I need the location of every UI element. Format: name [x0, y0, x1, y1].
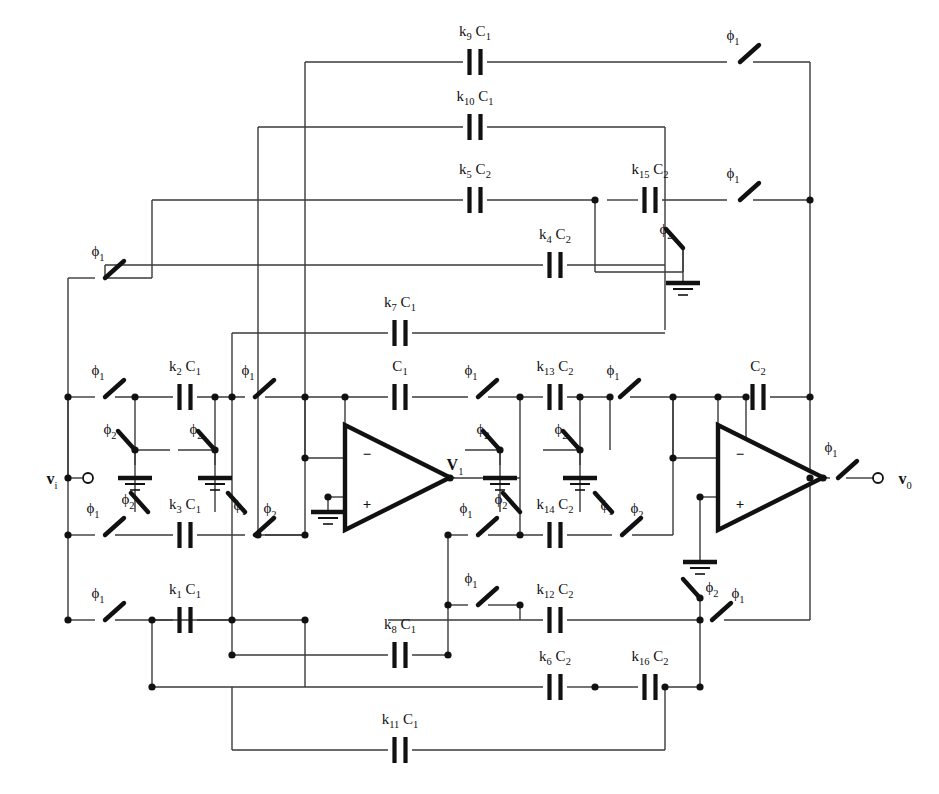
junction-dot — [714, 393, 721, 400]
junction-dot — [591, 683, 598, 690]
switch-sw-k3-left-phi1[interactable] — [103, 518, 124, 537]
opamp-body — [345, 425, 450, 530]
capacitor-C1 — [395, 384, 406, 410]
switch-blade[interactable] — [712, 603, 731, 620]
capacitor-label-C1: C1 — [392, 358, 407, 377]
junction-dot — [64, 531, 71, 538]
junction-dot — [516, 531, 523, 538]
switch-phase-label-sw-top-phi1: ϕ1 — [726, 27, 739, 47]
switch-blade[interactable] — [683, 579, 700, 598]
switch-sw-in-top-phi1[interactable] — [103, 261, 124, 280]
circuit-diagram-canvas: −+−+ k9 C1k10 C1k5 C2k15 C2k4 C2k7 C1k2 … — [0, 0, 939, 794]
junction-dot — [696, 683, 703, 690]
junction-dot — [661, 683, 668, 690]
switch-phase-label-sw-k14-right-phi2: ϕ2 — [630, 500, 643, 520]
switch-pivot — [518, 510, 521, 513]
capacitor-k5C2 — [470, 187, 481, 213]
switch-blade[interactable] — [105, 603, 124, 620]
input-port-circle — [83, 473, 93, 483]
capacitor-k9C1 — [470, 49, 481, 75]
switch-sw-c1-right-phi1[interactable] — [476, 380, 497, 399]
switch-blade[interactable] — [105, 261, 124, 278]
switch-phase-label-sw-k13n-gnd-phi2: ϕ2 — [554, 421, 567, 441]
capacitor-C2 — [753, 384, 764, 410]
capacitor-k16C2 — [645, 674, 656, 700]
capacitor-label-k3C1: k3 C1 — [169, 496, 201, 515]
junction-dot — [211, 393, 218, 400]
switch-blade[interactable] — [118, 431, 135, 450]
switch-sw-k14-right-phi2[interactable] — [620, 518, 641, 537]
opamp-noninverting-input-label: + — [736, 496, 745, 512]
switch-phase-label-sw-k1-left-phi1: ϕ1 — [91, 585, 104, 605]
junction-dot — [148, 616, 155, 623]
capacitor-label-k1C1: k1 C1 — [169, 581, 201, 600]
junction-dot — [669, 393, 676, 400]
switch-phase-label-sw-k3-right-phi2: ϕ2 — [263, 500, 276, 520]
switch-sw-top-phi1[interactable] — [738, 45, 759, 64]
switch-sw-in-mid-phi1[interactable] — [103, 380, 124, 399]
capacitor-label-k10C1: k10 C1 — [456, 88, 493, 107]
switch-sw-k8-right-phi1[interactable] — [476, 588, 497, 607]
junction-dot — [819, 474, 826, 481]
junction-dot — [742, 393, 749, 400]
switch-pivot — [103, 395, 106, 398]
switch-phase-label-sw-out-phi1: ϕ1 — [824, 439, 837, 459]
switch-phase-label-sw-c1-right-phi1: ϕ1 — [464, 362, 477, 382]
ground-gnd-op1 — [311, 512, 345, 524]
switch-blade[interactable] — [838, 461, 857, 478]
junction-dot — [444, 651, 451, 658]
switch-blade[interactable] — [478, 380, 497, 397]
junction-dot — [148, 683, 155, 690]
switch-sw-k2-right-phi1[interactable] — [253, 380, 274, 399]
junction-dot — [301, 531, 308, 538]
switch-sw-k14-left-phi1[interactable] — [476, 518, 497, 537]
switch-sw-fb-phi1[interactable] — [710, 603, 731, 622]
capacitor-k3C1 — [180, 522, 191, 548]
capacitor-k14C2 — [550, 522, 561, 548]
switch-phase-label-sw-fb-phi2: ϕ2 — [705, 579, 718, 599]
junction-dot — [131, 393, 138, 400]
opamp-inverting-input-label: − — [736, 446, 745, 462]
switch-sw-k5-row-phi1[interactable] — [738, 183, 759, 202]
switch-sw-out-phi1[interactable] — [836, 461, 857, 480]
switch-phase-label-sw-b-gnd-phi2: ϕ2 — [189, 421, 202, 441]
junction-dot — [301, 616, 308, 623]
junction-dot — [669, 454, 676, 461]
switch-sw-k1-left-phi1[interactable] — [103, 603, 124, 622]
junction-dot — [341, 393, 348, 400]
switch-blade[interactable] — [740, 183, 759, 200]
junction-dot — [576, 446, 583, 453]
switch-blade[interactable] — [105, 518, 124, 535]
switch-blade[interactable] — [105, 380, 124, 397]
capacitor-label-k12C2: k12 C2 — [536, 581, 573, 600]
capacitor-label-k7C1: k7 C1 — [384, 294, 416, 313]
junction-dot — [606, 393, 613, 400]
junction-dot — [211, 446, 218, 453]
switch-blade[interactable] — [620, 380, 639, 397]
node-v1-label: V1 — [447, 456, 464, 477]
switch-pivot — [476, 395, 479, 398]
switch-phase-label-sw-fb-phi1: ϕ1 — [731, 585, 744, 605]
output-port-circle — [873, 473, 883, 483]
switch-pivot — [253, 395, 256, 398]
junction-dot — [254, 531, 261, 538]
capacitor-label-k2C1: k2 C1 — [169, 358, 201, 377]
capacitor-k6C2 — [550, 674, 561, 700]
junction-dot — [444, 531, 451, 538]
switch-sw-k13-right-phi1[interactable] — [618, 380, 639, 399]
opamp-noninverting-input-label: + — [363, 496, 372, 512]
junction-dot — [228, 393, 235, 400]
input-terminal: vi — [47, 470, 58, 491]
capacitor-k2C1 — [180, 384, 191, 410]
switch-blade[interactable] — [622, 518, 641, 535]
switch-blade[interactable] — [478, 518, 497, 535]
switch-pivot — [103, 276, 106, 279]
junction-dot — [696, 493, 703, 500]
capacitor-label-k11C1: k11 C1 — [382, 711, 419, 730]
switch-phase-label-sw-k8-right-phi1: ϕ1 — [464, 570, 477, 590]
switch-pivot — [620, 533, 623, 536]
switch-blade[interactable] — [478, 588, 497, 605]
switch-phase-label-sw-k14-right-phi1: ϕ1 — [600, 497, 613, 517]
switch-blade[interactable] — [740, 45, 759, 62]
junction-dot — [591, 196, 598, 203]
